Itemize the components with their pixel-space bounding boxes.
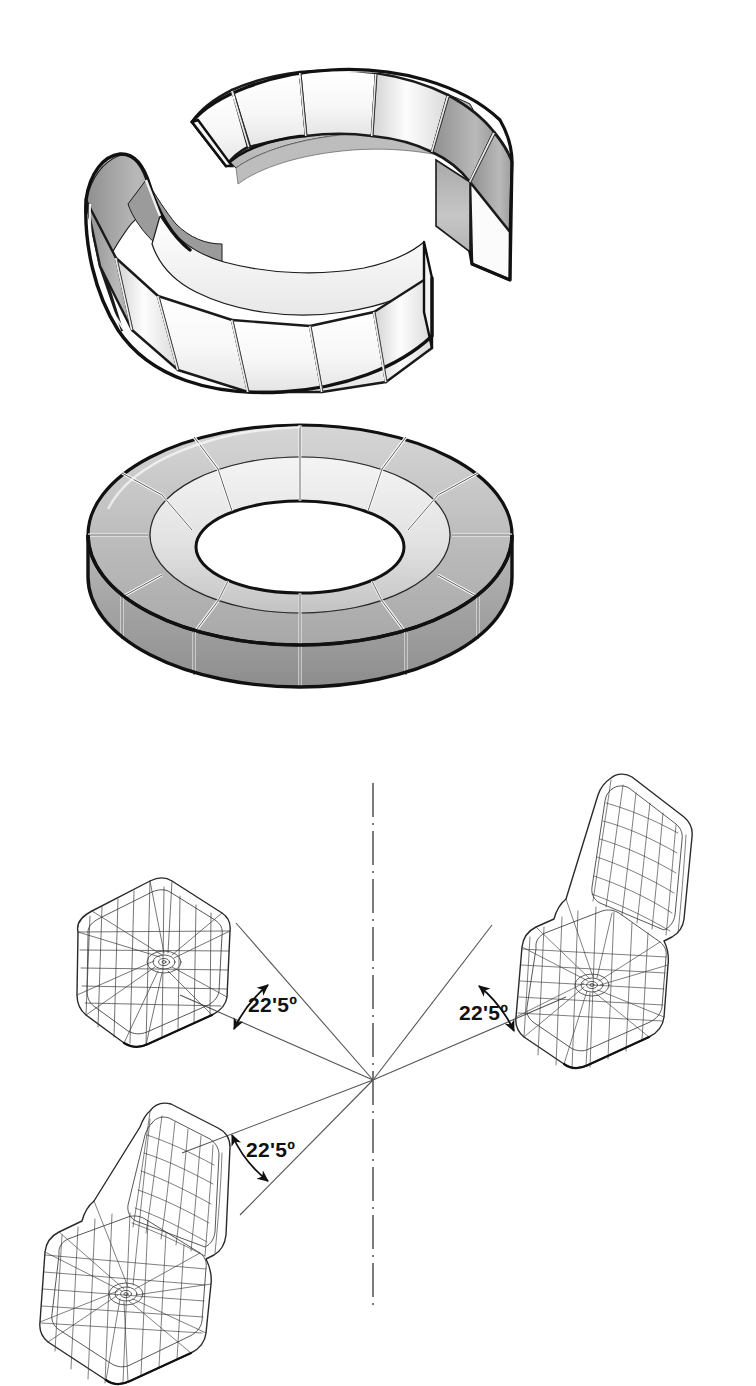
arc-lower-seat-top	[152, 216, 432, 315]
seat-ur-outline	[516, 774, 692, 1068]
seat-ul-rim	[87, 890, 222, 1034]
angle-label-lower-left: 22'5º	[246, 1138, 295, 1161]
arc-module-lower	[86, 154, 432, 393]
wireframe-seat-upper-left	[77, 878, 230, 1047]
angle-label-upper-right: 22'5º	[459, 1001, 508, 1024]
angle-label-upper-left: 22'5º	[248, 993, 297, 1016]
figure-exploded-arcs	[0, 0, 756, 392]
figure-assembled-ring	[0, 385, 756, 700]
ring-inner-hole	[196, 501, 404, 593]
figure-angle-layout: 22'5º 22'5º 22'5º	[0, 735, 756, 1386]
seat-ul-base-shadow	[124, 1015, 212, 1047]
drawing-sheet: 22'5º 22'5º 22'5º	[0, 0, 756, 1386]
seat-ll-base-shadow	[106, 1353, 191, 1384]
arc-upper-module-3	[300, 71, 376, 136]
wireframe-seat-upper-right	[516, 774, 692, 1069]
arc-module-upper	[192, 69, 512, 280]
